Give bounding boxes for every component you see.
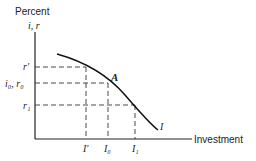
tick-I-prime: I′ [82, 143, 89, 154]
investment-demand-diagram: Percent i, r Investment r′ i₀, r₀ r₁ I′ … [0, 0, 256, 161]
tick-i0-r0: i₀, r₀ [5, 78, 24, 89]
tick-r1: r₁ [23, 100, 30, 111]
y-axis-title: Percent [15, 6, 50, 17]
tick-I1: I₁ [131, 143, 139, 154]
x-axis-title: Investment [194, 134, 243, 145]
investment-curve [57, 54, 158, 130]
tick-r-prime: r′ [23, 61, 30, 72]
tick-I0: I₀ [103, 143, 111, 154]
curve-I-label: I [159, 121, 164, 132]
y-axis-subtitle: i, r [28, 20, 40, 31]
dashed-guides [35, 67, 135, 139]
point-A-label: A [110, 71, 118, 83]
